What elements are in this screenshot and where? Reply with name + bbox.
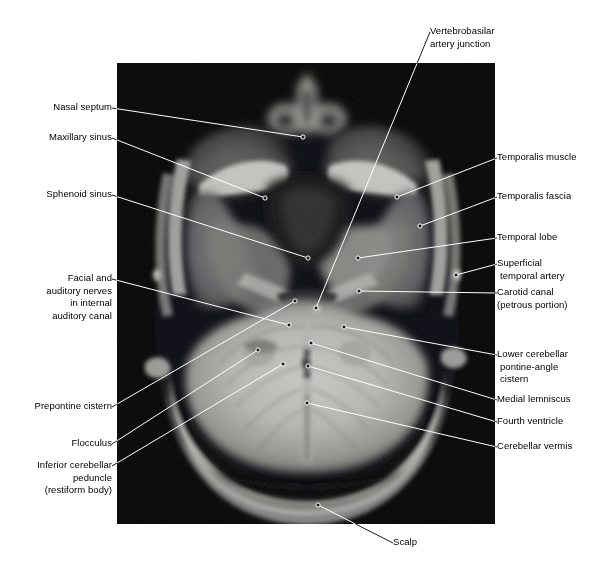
label-vertebrobasilar-artery-junction: Vertebrobasilar artery junction — [430, 25, 495, 50]
label-flocculus: Flocculus — [71, 437, 112, 450]
leader-line-scalp — [356, 524, 393, 543]
label-carotid-canal: Carotid canal (petrous portion) — [497, 286, 568, 311]
label-line: auditory nerves — [46, 285, 112, 298]
label-temporalis-fascia: Temporalis fascia — [497, 190, 571, 203]
leader-line-facial-and-auditory-nerves-internal-auditory-canal — [112, 279, 117, 280]
label-medial-lemniscus: Medial lemniscus — [497, 393, 571, 406]
label-line: Superficial — [497, 257, 565, 270]
label-line: artery junction — [430, 38, 495, 51]
label-line: temporal artery — [497, 270, 565, 283]
label-line: (petrous portion) — [497, 299, 568, 312]
leader-line-nasal-septum — [112, 108, 117, 109]
label-line: cistern — [497, 373, 568, 386]
label-line: Fourth ventricle — [497, 415, 563, 428]
label-line: in internal — [46, 297, 112, 310]
label-line: Facial and — [46, 272, 112, 285]
label-line: pontine-angle — [497, 361, 568, 374]
label-line: (restiform body) — [37, 484, 112, 497]
label-line: Vertebrobasilar — [430, 25, 495, 38]
label-line: Carotid canal — [497, 286, 568, 299]
label-lower-cerebellar-pontine-angle-cistern: Lower cerebellar pontine-angle cistern — [497, 348, 568, 386]
label-superficial-temporal-artery: Superficial temporal artery — [497, 257, 565, 282]
axial-mri-scan-image — [117, 63, 495, 524]
label-facial-and-auditory-nerves: Facial and auditory nerves in internal a… — [46, 272, 112, 322]
label-line: Inferior cerebellar — [37, 459, 112, 472]
label-line: Temporalis fascia — [497, 190, 571, 203]
leader-line-vertebrobasilar-artery-junction — [417, 32, 430, 63]
leader-line-sphenoid-sinus — [112, 195, 117, 197]
label-line: Nasal septum — [53, 101, 112, 114]
label-line: Maxillary sinus — [49, 131, 112, 144]
label-sphenoid-sinus: Sphenoid sinus — [46, 188, 112, 201]
label-line: Scalp — [393, 536, 417, 549]
mri-figure: Nasal septum Maxillary sinus Sphenoid si… — [0, 0, 611, 576]
label-maxillary-sinus: Maxillary sinus — [49, 131, 112, 144]
label-line: Medial lemniscus — [497, 393, 571, 406]
label-line: Temporalis muscle — [497, 151, 577, 164]
label-cerebellar-vermis: Cerebellar vermis — [497, 440, 572, 453]
label-nasal-septum: Nasal septum — [53, 101, 112, 114]
label-line: Prepontine cistern — [35, 400, 112, 413]
label-line: Cerebellar vermis — [497, 440, 572, 453]
label-line: Lower cerebellar — [497, 348, 568, 361]
label-temporalis-muscle: Temporalis muscle — [497, 151, 577, 164]
mri-scan-graphic — [117, 63, 495, 524]
label-line: peduncle — [37, 472, 112, 485]
label-fourth-ventricle: Fourth ventricle — [497, 415, 563, 428]
label-prepontine-cistern: Prepontine cistern — [35, 400, 112, 413]
label-line: Temporal lobe — [497, 231, 557, 244]
label-temporal-lobe: Temporal lobe — [497, 231, 557, 244]
label-line: auditory canal — [46, 310, 112, 323]
label-scalp: Scalp — [393, 536, 417, 549]
label-inferior-cerebellar-peduncle: Inferior cerebellar peduncle (restiform … — [37, 459, 112, 497]
label-line: Sphenoid sinus — [46, 188, 112, 201]
label-line: Flocculus — [71, 437, 112, 450]
